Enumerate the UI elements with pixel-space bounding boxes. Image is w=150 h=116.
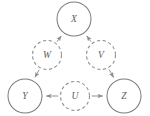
node-u-label: U (72, 91, 80, 101)
node-x-label: X (70, 14, 78, 24)
node-w-label: W (43, 50, 52, 60)
node-z-label: Z (121, 91, 127, 101)
node-w[interactable]: W (33, 41, 62, 70)
node-u[interactable]: U (61, 82, 90, 111)
node-x[interactable]: X (57, 2, 91, 36)
node-v[interactable]: V (87, 41, 116, 70)
causal-diagram-canvas: XWVYUZ (0, 0, 150, 116)
edge-arrow-v-to-z (109, 70, 113, 78)
edge-arrow-v-to-x (87, 36, 91, 42)
nodes-layer: XWVYUZ (8, 2, 141, 113)
node-z[interactable]: Z (107, 79, 141, 113)
node-y[interactable]: Y (8, 79, 42, 113)
edge-arrow-w-to-y (35, 70, 39, 78)
causal-dag-graphic: XWVYUZ (0, 0, 150, 116)
edge-arrow-w-to-x (57, 36, 61, 42)
